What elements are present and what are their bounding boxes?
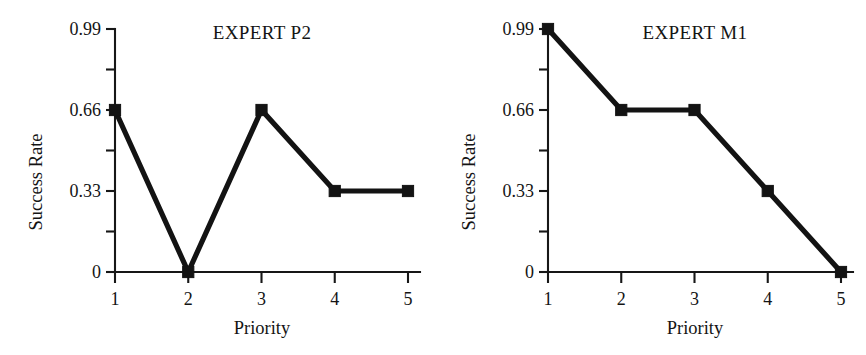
data-point-marker xyxy=(835,266,846,277)
x-tick-label: 2 xyxy=(184,289,193,309)
data-point-marker xyxy=(256,104,267,115)
chart-svg-expert-p2: EXPERT P2 Success Rate Priority 00.330.6… xyxy=(0,0,433,355)
data-point-marker xyxy=(109,104,120,115)
y-axis-ticks: 00.330.660.99 xyxy=(503,19,549,282)
data-point-marker xyxy=(329,185,340,196)
data-point-marker xyxy=(689,104,700,115)
data-point-marker xyxy=(183,266,194,277)
figure-container: EXPERT P2 Success Rate Priority 00.330.6… xyxy=(0,0,866,355)
x-tick-label: 1 xyxy=(544,289,553,309)
x-tick-label: 5 xyxy=(837,289,846,309)
x-tick-label: 2 xyxy=(617,289,626,309)
x-tick-label: 1 xyxy=(111,289,120,309)
x-axis-ticks: 12345 xyxy=(544,272,846,309)
data-point-marker xyxy=(542,23,553,34)
x-tick-label: 4 xyxy=(763,289,772,309)
y-tick-label: 0 xyxy=(92,262,101,282)
data-point-marker xyxy=(616,104,627,115)
x-tick-label: 5 xyxy=(404,289,413,309)
series-polyline xyxy=(548,29,841,272)
series-polyline xyxy=(115,110,408,272)
data-markers xyxy=(542,23,846,277)
data-point-marker xyxy=(762,185,773,196)
data-point-marker xyxy=(402,185,413,196)
data-series xyxy=(115,110,408,272)
x-axis-ticks: 12345 xyxy=(111,272,413,309)
y-tick-label: 0.99 xyxy=(70,19,102,39)
y-tick-label: 0.99 xyxy=(503,19,535,39)
chart-svg-expert-m1: EXPERT M1 Success Rate Priority 00.330.6… xyxy=(433,0,866,355)
y-tick-label: 0.33 xyxy=(503,181,535,201)
y-tick-label: 0.66 xyxy=(503,100,535,120)
x-tick-label: 4 xyxy=(330,289,339,309)
y-axis-label: Success Rate xyxy=(459,133,479,230)
y-tick-label: 0.33 xyxy=(70,181,102,201)
y-axis-label: Success Rate xyxy=(26,133,46,230)
chart-panel-expert-m1: EXPERT M1 Success Rate Priority 00.330.6… xyxy=(433,0,866,355)
x-tick-label: 3 xyxy=(690,289,699,309)
y-axis-ticks: 00.330.660.99 xyxy=(70,19,116,282)
x-axis-label: Priority xyxy=(667,318,724,338)
y-tick-label: 0.66 xyxy=(70,100,102,120)
x-tick-label: 3 xyxy=(257,289,266,309)
data-series xyxy=(548,29,841,272)
chart-panel-expert-p2: EXPERT P2 Success Rate Priority 00.330.6… xyxy=(0,0,433,355)
x-axis-label: Priority xyxy=(234,318,291,338)
y-tick-label: 0 xyxy=(525,262,534,282)
chart-title: EXPERT P2 xyxy=(213,22,312,43)
chart-title: EXPERT M1 xyxy=(642,22,747,43)
chart-axes xyxy=(115,29,420,272)
